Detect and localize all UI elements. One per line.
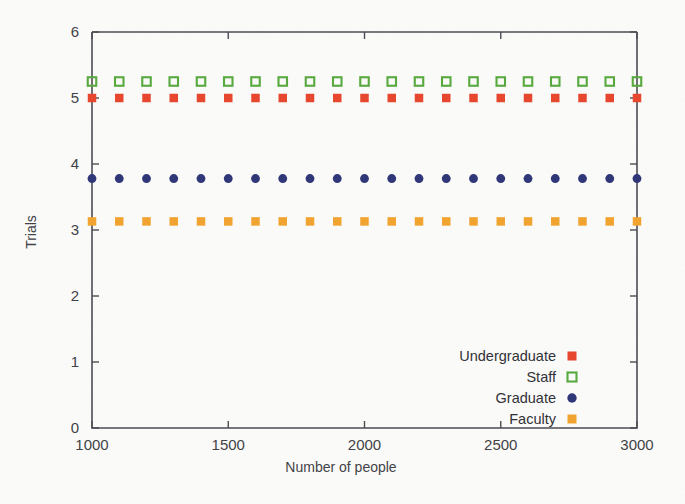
x-tick-label: 1000 [75, 436, 108, 453]
scatter-plot: 0123456 10001500200025003000 Undergradua… [0, 0, 685, 504]
data-point-marker [524, 217, 533, 226]
legend-marker-icon [567, 393, 576, 402]
data-point-marker [197, 77, 206, 86]
data-point-marker [578, 174, 587, 183]
data-point-marker [606, 217, 615, 226]
data-point-marker [360, 94, 369, 103]
data-point-marker [88, 94, 97, 103]
data-point-marker [115, 77, 124, 86]
data-point-marker [224, 217, 233, 226]
data-point-marker [469, 174, 478, 183]
data-point-marker [170, 217, 179, 226]
data-point-marker [279, 77, 288, 86]
data-point-marker [496, 174, 505, 183]
data-point-marker [115, 94, 124, 103]
x-tick-label: 1500 [212, 436, 245, 453]
legend-label: Undergraduate [459, 348, 556, 364]
y-tick-label: 3 [71, 221, 79, 238]
x-tick-label: 2500 [484, 436, 517, 453]
data-point-marker [524, 174, 533, 183]
data-point-marker [251, 77, 260, 86]
series-faculty [88, 217, 642, 226]
data-point-marker [279, 217, 288, 226]
data-point-marker [224, 94, 233, 103]
data-point-marker [115, 217, 124, 226]
legend-item-faculty[interactable]: Faculty [509, 411, 576, 427]
data-point-marker [169, 174, 178, 183]
data-point-marker [415, 94, 424, 103]
legend-item-undergraduate[interactable]: Undergraduate [459, 348, 576, 364]
data-point-marker [115, 174, 124, 183]
data-point-marker [497, 217, 506, 226]
data-point-marker [306, 217, 315, 226]
data-point-marker [442, 217, 451, 226]
data-point-marker [388, 94, 397, 103]
data-point-marker [578, 77, 587, 86]
data-point-marker [606, 94, 615, 103]
data-point-marker [633, 217, 642, 226]
data-point-marker [605, 174, 614, 183]
legend-label: Graduate [496, 390, 556, 406]
data-point-marker [333, 174, 342, 183]
series-staff [88, 77, 642, 86]
data-point-marker [224, 77, 233, 86]
data-point-marker [442, 94, 451, 103]
y-tick-label: 1 [71, 353, 79, 370]
data-point-marker [578, 94, 587, 103]
legend-label: Staff [526, 369, 557, 385]
data-point-marker [88, 174, 97, 183]
data-point-marker [387, 174, 396, 183]
data-point-marker [251, 94, 260, 103]
data-point-marker [551, 94, 560, 103]
data-point-marker [251, 217, 260, 226]
data-point-marker [306, 174, 315, 183]
x-tick-label: 3000 [620, 436, 653, 453]
data-point-marker [306, 94, 315, 103]
data-point-marker [170, 94, 179, 103]
y-tick-label: 5 [71, 89, 79, 106]
data-point-marker [442, 77, 451, 86]
data-point-marker [142, 94, 151, 103]
data-point-marker [469, 94, 478, 103]
data-point-marker [633, 94, 642, 103]
data-point-marker [360, 77, 369, 86]
data-point-marker [142, 77, 151, 86]
data-point-marker [360, 217, 369, 226]
data-point-marker [333, 77, 342, 86]
x-axis-title: Number of people [285, 459, 397, 475]
series-graduate [88, 174, 642, 183]
data-points-layer [88, 77, 642, 225]
y-tick-label: 4 [71, 155, 79, 172]
data-point-marker [497, 94, 506, 103]
data-point-marker [251, 174, 260, 183]
y-tick-label: 0 [71, 419, 79, 436]
data-point-marker [551, 77, 560, 86]
data-point-marker [388, 77, 397, 86]
chart-legend: UndergraduateStaffGraduateFaculty [459, 348, 576, 427]
data-point-marker [197, 94, 206, 103]
data-point-marker [197, 217, 206, 226]
data-point-marker [170, 77, 179, 86]
data-point-marker [415, 217, 424, 226]
data-point-marker [415, 174, 424, 183]
data-point-marker [306, 77, 315, 86]
data-point-marker [142, 217, 151, 226]
data-point-marker [415, 77, 424, 86]
data-point-marker [88, 217, 97, 226]
x-tick-label: 2000 [348, 436, 381, 453]
legend-item-staff[interactable]: Staff [526, 369, 576, 385]
data-point-marker [360, 174, 369, 183]
legend-item-graduate[interactable]: Graduate [496, 390, 577, 406]
data-point-marker [278, 174, 287, 183]
data-point-marker [333, 94, 342, 103]
data-point-marker [606, 77, 615, 86]
data-point-marker [224, 174, 233, 183]
data-point-marker [524, 94, 533, 103]
data-point-marker [388, 217, 397, 226]
y-tick-label: 2 [71, 287, 79, 304]
data-point-marker [197, 174, 206, 183]
data-point-marker [469, 77, 478, 86]
legend-marker-icon [568, 373, 577, 382]
data-point-marker [551, 217, 560, 226]
data-point-marker [524, 77, 533, 86]
